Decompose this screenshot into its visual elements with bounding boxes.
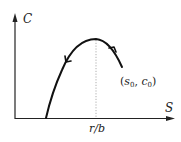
peak-tick-label: r/b xyxy=(89,123,105,134)
x-axis-label: S xyxy=(165,102,173,114)
trajectory-curve xyxy=(46,39,122,118)
y-axis-label: C xyxy=(23,13,32,25)
start-point-label: (s0, c0) xyxy=(120,76,156,89)
y-axis-arrow-icon xyxy=(13,13,18,22)
paren-close: ) xyxy=(152,75,156,88)
x-axis-arrow-icon xyxy=(166,116,175,121)
phase-plane-diagram: C S r/b (s0, c0) xyxy=(0,0,181,142)
